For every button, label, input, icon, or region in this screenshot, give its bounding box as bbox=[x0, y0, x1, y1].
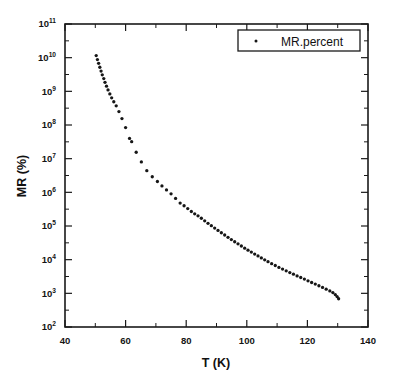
y-axis-title: MR (%) bbox=[15, 155, 29, 197]
data-point bbox=[299, 276, 302, 279]
data-point bbox=[96, 58, 99, 61]
data-point bbox=[243, 246, 246, 249]
data-point bbox=[321, 286, 324, 289]
data-point bbox=[105, 85, 108, 88]
data-point bbox=[303, 277, 306, 280]
data-point bbox=[130, 140, 133, 143]
data-point bbox=[178, 201, 181, 204]
data-point bbox=[102, 77, 105, 80]
data-point bbox=[220, 231, 223, 234]
data-point bbox=[274, 264, 277, 267]
data-point bbox=[165, 188, 168, 191]
data-point bbox=[306, 279, 309, 282]
data-point bbox=[337, 297, 340, 300]
x-ticklabel: 80 bbox=[181, 335, 192, 346]
data-point bbox=[112, 100, 115, 103]
x-ticklabel: 100 bbox=[239, 335, 255, 346]
data-point bbox=[223, 233, 226, 236]
data-point bbox=[325, 288, 328, 291]
data-point bbox=[260, 256, 263, 259]
data-point bbox=[103, 81, 106, 84]
data-point bbox=[140, 160, 143, 163]
data-point bbox=[124, 126, 127, 129]
data-point bbox=[281, 267, 284, 270]
data-point bbox=[253, 252, 256, 255]
data-point bbox=[190, 210, 193, 213]
x-ticklabel: 140 bbox=[360, 335, 376, 346]
data-point bbox=[108, 92, 111, 95]
data-point bbox=[182, 204, 185, 207]
data-point bbox=[310, 281, 313, 284]
data-point bbox=[110, 96, 113, 99]
data-point bbox=[210, 224, 213, 227]
legend-label-mr-percent: MR.percent bbox=[281, 35, 344, 49]
data-point bbox=[169, 192, 172, 195]
data-point bbox=[117, 110, 120, 113]
chart-background bbox=[0, 0, 396, 386]
data-point bbox=[250, 250, 253, 253]
data-point bbox=[270, 262, 273, 265]
data-point bbox=[145, 169, 148, 172]
data-point bbox=[160, 184, 163, 187]
chart-legend: MR.percent bbox=[238, 30, 360, 51]
data-point bbox=[186, 207, 189, 210]
figure-container: 406080100120140 102103104105106107108109… bbox=[0, 0, 396, 386]
data-point bbox=[98, 66, 101, 69]
data-point bbox=[95, 54, 98, 57]
x-ticklabel: 40 bbox=[60, 335, 71, 346]
data-point bbox=[115, 104, 118, 107]
x-ticklabel: 60 bbox=[120, 335, 131, 346]
data-point bbox=[193, 212, 196, 215]
x-axis-title: T (K) bbox=[202, 356, 230, 370]
data-point bbox=[246, 248, 249, 251]
data-point bbox=[106, 88, 109, 91]
data-point bbox=[97, 62, 100, 65]
data-point bbox=[216, 229, 219, 232]
data-point bbox=[295, 274, 298, 277]
data-point bbox=[213, 226, 216, 229]
x-ticklabel: 120 bbox=[299, 335, 315, 346]
data-point bbox=[236, 242, 239, 245]
data-point bbox=[285, 269, 288, 272]
data-point bbox=[328, 289, 331, 292]
data-point bbox=[317, 284, 320, 287]
data-point bbox=[156, 180, 159, 183]
data-point bbox=[263, 258, 266, 261]
data-point bbox=[240, 244, 243, 247]
data-point bbox=[292, 273, 295, 276]
data-point bbox=[266, 260, 269, 263]
data-point bbox=[314, 282, 317, 285]
data-point bbox=[230, 238, 233, 241]
data-point bbox=[226, 236, 229, 239]
data-point bbox=[128, 137, 131, 140]
mr-vs-temperature-chart: 406080100120140 102103104105106107108109… bbox=[0, 0, 396, 386]
data-point bbox=[196, 214, 199, 217]
data-point bbox=[200, 217, 203, 220]
legend-marker-dot bbox=[255, 40, 258, 43]
data-point bbox=[151, 175, 154, 178]
data-point bbox=[288, 271, 291, 274]
data-point bbox=[120, 117, 123, 120]
data-point bbox=[203, 219, 206, 222]
data-point bbox=[135, 151, 138, 154]
data-point bbox=[99, 69, 102, 72]
data-point bbox=[174, 197, 177, 200]
data-point bbox=[256, 254, 259, 257]
data-point bbox=[233, 240, 236, 243]
data-point bbox=[101, 73, 104, 76]
data-point bbox=[277, 266, 280, 269]
data-point bbox=[206, 222, 209, 225]
